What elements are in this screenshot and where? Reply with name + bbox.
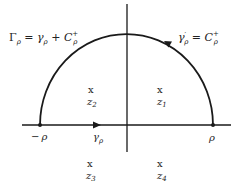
x-mark-icon: x xyxy=(157,84,163,95)
left-endpoint-dot xyxy=(38,123,42,127)
svg-text:z3: z3 xyxy=(85,170,96,183)
minus-rho-label: −ρ xyxy=(31,131,47,142)
arc-label: γ′ρ = C+ρ xyxy=(178,30,219,46)
point-z1: x z1 xyxy=(156,84,167,109)
x-mark-icon: x xyxy=(87,158,93,169)
arrow-right-icon xyxy=(93,122,101,129)
point-z3: x z3 xyxy=(85,158,96,183)
svg-text:z2: z2 xyxy=(86,96,97,109)
point-z2: x z2 xyxy=(86,84,97,109)
rho-label: ρ xyxy=(208,132,215,143)
svg-text:z1: z1 xyxy=(156,96,167,109)
gamma-contour-label: Γρ = γρ + C+ρ xyxy=(9,30,78,46)
x-mark-icon: x xyxy=(157,158,163,169)
x-mark-icon: x xyxy=(88,84,94,95)
svg-text:z4: z4 xyxy=(156,170,167,183)
point-z4: x z4 xyxy=(156,158,167,183)
contour-diagram: Γρ = γρ + C+ρ γ′ρ = C+ρ −ρ ρ γρ x z1 x z… xyxy=(0,0,242,188)
right-endpoint-dot xyxy=(211,123,215,127)
gamma-rho-label: γρ xyxy=(93,131,104,145)
